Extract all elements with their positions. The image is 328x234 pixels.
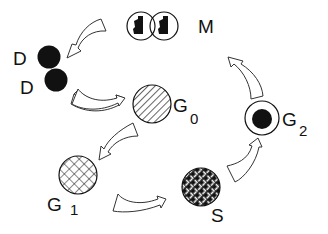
curved-arrow-icon [113,194,166,212]
stage-m: M [127,12,214,40]
s-cell [182,168,220,206]
stage-label-g2: G [282,109,297,130]
stage-subscript-g2: 2 [299,122,307,139]
stage-subscript-g0: 0 [190,110,198,127]
m-chromosome-left [133,16,143,34]
d-cell-lower [45,69,68,92]
stage-g0: G 0 [133,85,198,127]
stage-g2: G 2 [245,101,307,139]
curved-arrow-icon [228,57,263,99]
stage-d-upper: D [13,46,61,70]
curved-arrow-icon [99,123,138,160]
stage-label-g0: G [173,95,188,116]
stage-label-m: M [198,16,214,37]
curved-arrow-icon [67,19,106,58]
stage-label-s: S [211,205,224,226]
m-chromosome-right [158,16,168,34]
stage-g1: G 1 [47,156,97,218]
stage-label-d-upper: D [13,48,27,69]
stage-d-lower: D [20,69,68,99]
stage-s: S [182,168,224,226]
g1-cell [59,156,97,194]
curved-arrow-icon [227,138,262,182]
cell-cycle-diagram: M D D G 0 G 1 S G 2 [0,0,328,234]
stage-label-g1: G [47,194,62,215]
stage-label-d-lower: D [20,77,34,98]
stage-subscript-g1: 1 [70,201,78,218]
g2-nucleus [252,109,272,129]
d-cell-upper [38,46,61,69]
g0-cell [133,85,171,123]
